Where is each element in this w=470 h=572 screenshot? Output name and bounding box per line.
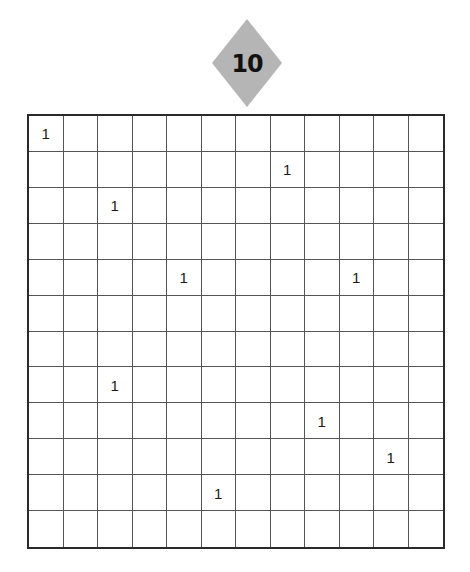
grid-cell[interactable]: 1	[340, 260, 375, 296]
grid-cell[interactable]	[340, 224, 375, 260]
grid-cell[interactable]	[98, 260, 133, 296]
grid-cell[interactable]	[409, 332, 444, 368]
grid-cell[interactable]	[305, 188, 340, 224]
grid-cell[interactable]	[133, 439, 168, 475]
grid-cell[interactable]	[64, 116, 99, 152]
grid-cell[interactable]	[167, 188, 202, 224]
grid-cell[interactable]	[29, 332, 64, 368]
grid-cell[interactable]	[340, 367, 375, 403]
grid-cell[interactable]	[236, 475, 271, 511]
grid-cell[interactable]	[167, 116, 202, 152]
grid-cell[interactable]	[64, 475, 99, 511]
grid-cell[interactable]	[374, 188, 409, 224]
grid-cell[interactable]	[271, 367, 306, 403]
grid-cell[interactable]	[409, 152, 444, 188]
grid-cell[interactable]	[305, 475, 340, 511]
grid-cell[interactable]: 1	[98, 367, 133, 403]
grid-cell[interactable]	[64, 367, 99, 403]
grid-cell[interactable]	[133, 188, 168, 224]
grid-cell[interactable]	[374, 260, 409, 296]
grid-cell[interactable]	[340, 439, 375, 475]
grid-cell[interactable]	[271, 332, 306, 368]
grid-cell[interactable]	[271, 296, 306, 332]
grid-cell[interactable]	[167, 152, 202, 188]
grid-cell[interactable]	[133, 116, 168, 152]
grid-cell[interactable]	[167, 296, 202, 332]
grid-cell[interactable]	[133, 152, 168, 188]
grid-cell[interactable]	[305, 116, 340, 152]
grid-cell[interactable]	[64, 332, 99, 368]
grid-cell[interactable]	[271, 475, 306, 511]
grid-cell[interactable]	[133, 224, 168, 260]
grid-cell[interactable]	[64, 439, 99, 475]
grid-cell[interactable]	[236, 296, 271, 332]
grid-cell[interactable]	[64, 296, 99, 332]
grid-cell[interactable]	[271, 439, 306, 475]
grid-cell[interactable]	[305, 152, 340, 188]
grid-cell[interactable]	[409, 439, 444, 475]
grid-cell[interactable]: 1	[29, 116, 64, 152]
grid-cell[interactable]	[167, 403, 202, 439]
grid-cell[interactable]	[167, 332, 202, 368]
grid-cell[interactable]	[29, 367, 64, 403]
grid-cell[interactable]	[340, 188, 375, 224]
grid-cell[interactable]	[29, 296, 64, 332]
grid-cell[interactable]	[133, 260, 168, 296]
grid-cell[interactable]	[98, 152, 133, 188]
grid-cell[interactable]	[167, 224, 202, 260]
grid-cell[interactable]	[271, 188, 306, 224]
grid-cell[interactable]	[340, 332, 375, 368]
grid-cell[interactable]	[133, 511, 168, 547]
grid-cell[interactable]	[374, 511, 409, 547]
grid-cell[interactable]	[29, 224, 64, 260]
grid-cell[interactable]	[374, 296, 409, 332]
grid-cell[interactable]	[271, 260, 306, 296]
grid-cell[interactable]: 1	[167, 260, 202, 296]
grid-cell[interactable]	[374, 152, 409, 188]
grid-cell[interactable]	[236, 116, 271, 152]
grid-cell[interactable]	[409, 116, 444, 152]
grid-cell[interactable]: 1	[374, 439, 409, 475]
grid-cell[interactable]	[305, 332, 340, 368]
grid-cell[interactable]	[167, 511, 202, 547]
grid-cell[interactable]	[236, 403, 271, 439]
grid-cell[interactable]	[374, 403, 409, 439]
grid-cell[interactable]	[202, 188, 237, 224]
grid-cell[interactable]	[409, 188, 444, 224]
grid-cell[interactable]	[64, 511, 99, 547]
grid-cell[interactable]	[64, 224, 99, 260]
grid-cell[interactable]	[133, 332, 168, 368]
grid-cell[interactable]	[98, 116, 133, 152]
grid-cell[interactable]: 1	[305, 403, 340, 439]
grid-cell[interactable]	[236, 188, 271, 224]
grid-cell[interactable]	[236, 260, 271, 296]
grid-cell[interactable]	[409, 511, 444, 547]
grid-cell[interactable]	[202, 260, 237, 296]
grid-cell[interactable]	[202, 367, 237, 403]
grid-cell[interactable]	[98, 511, 133, 547]
grid-cell[interactable]	[374, 367, 409, 403]
grid-cell[interactable]	[271, 116, 306, 152]
grid-cell[interactable]	[167, 367, 202, 403]
grid-cell[interactable]	[98, 332, 133, 368]
grid-cell[interactable]	[133, 367, 168, 403]
grid-cell[interactable]: 1	[271, 152, 306, 188]
grid-cell[interactable]	[64, 403, 99, 439]
grid-cell[interactable]	[133, 403, 168, 439]
grid-cell[interactable]: 1	[202, 475, 237, 511]
grid-cell[interactable]: 1	[98, 188, 133, 224]
grid-cell[interactable]	[305, 296, 340, 332]
grid-cell[interactable]	[202, 332, 237, 368]
grid-cell[interactable]	[167, 475, 202, 511]
grid-cell[interactable]	[340, 152, 375, 188]
grid-cell[interactable]	[29, 188, 64, 224]
grid-cell[interactable]	[236, 332, 271, 368]
grid-cell[interactable]	[409, 367, 444, 403]
grid-cell[interactable]	[202, 511, 237, 547]
grid-cell[interactable]	[305, 224, 340, 260]
grid-cell[interactable]	[305, 439, 340, 475]
grid-cell[interactable]	[202, 224, 237, 260]
grid-cell[interactable]	[374, 224, 409, 260]
grid-cell[interactable]	[374, 475, 409, 511]
grid-cell[interactable]	[409, 475, 444, 511]
